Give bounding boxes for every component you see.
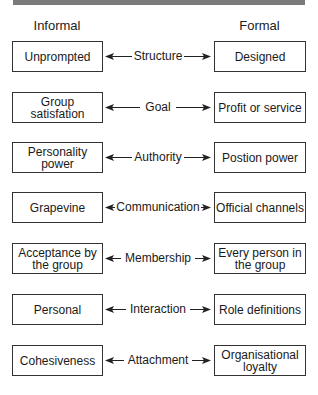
formal-box: Organisational loyalty (214, 345, 306, 376)
comparison-row-structure: Unprompted Structure Designed (0, 41, 318, 72)
comparison-row-communication: Grapevine Communication Official channel… (0, 192, 318, 223)
formal-box: Postion power (214, 142, 306, 173)
dimension-label: Goal (140, 100, 175, 114)
double-arrow-connector: Goal (103, 92, 213, 123)
dimension-label: Communication (115, 200, 200, 214)
double-arrow-connector: Membership (103, 243, 213, 274)
informal-box: Personal (12, 294, 103, 325)
formal-box: Profit or service (214, 92, 306, 123)
dimension-label: Interaction (126, 302, 190, 316)
formal-box: Every person in the group (214, 243, 306, 274)
double-arrow-connector: Interaction (103, 294, 213, 325)
informal-box: Unprompted (12, 41, 103, 72)
dimension-label: Attachment (124, 353, 193, 367)
informal-box: Personality power (12, 142, 103, 173)
top-border-bar (13, 0, 305, 5)
comparison-row-interaction: Personal Interaction Role definitions (0, 294, 318, 325)
comparison-row-authority: Personality power Authority Postion powe… (0, 142, 318, 173)
dimension-label: Authority (132, 150, 183, 164)
dimension-label: Membership (121, 251, 195, 265)
informal-box: Acceptance by the group (12, 243, 103, 274)
comparison-row-attachment: Cohesiveness Attachment Organisational l… (0, 345, 318, 376)
informal-box: Grapevine (12, 192, 103, 223)
double-arrow-connector: Communication (103, 192, 213, 223)
informal-column-header: Informal (14, 18, 100, 33)
double-arrow-connector: Attachment (103, 345, 213, 376)
informal-box: Group satisfation (12, 92, 103, 123)
formal-box: Role definitions (214, 294, 306, 325)
formal-box: Designed (214, 41, 306, 72)
comparison-row-membership: Acceptance by the group Membership Every… (0, 243, 318, 274)
double-arrow-connector: Authority (103, 142, 213, 173)
formal-column-header: Formal (214, 18, 305, 33)
formal-box: Official channels (214, 192, 306, 223)
comparison-row-goal: Group satisfation Goal Profit or service (0, 92, 318, 123)
double-arrow-connector: Structure (103, 41, 213, 72)
informal-box: Cohesiveness (12, 345, 103, 376)
dimension-label: Structure (132, 49, 185, 63)
